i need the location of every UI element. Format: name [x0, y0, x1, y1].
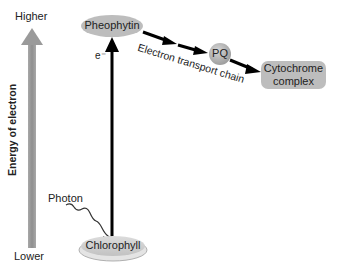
cytochrome-label: Cytochrome complex — [261, 62, 326, 88]
axis-bottom-label: Lower — [14, 250, 44, 262]
pheophytin-label: Pheophytin — [81, 19, 143, 31]
energy-axis-arrow — [21, 28, 43, 248]
electron-label: e⁻ — [95, 50, 106, 61]
pq-label: PQ — [209, 47, 231, 59]
chlorophyll-label: Chlorophyll — [81, 239, 145, 251]
cytochrome-label-line2: complex — [273, 75, 314, 87]
excitation-arrow — [105, 37, 119, 240]
diagram-canvas — [0, 0, 338, 267]
axis-title: Energy of electron — [6, 84, 18, 176]
cytochrome-label-line1: Cytochrome — [264, 62, 323, 74]
axis-top-label: Higher — [15, 10, 47, 22]
photon-label: Photon — [48, 192, 83, 204]
